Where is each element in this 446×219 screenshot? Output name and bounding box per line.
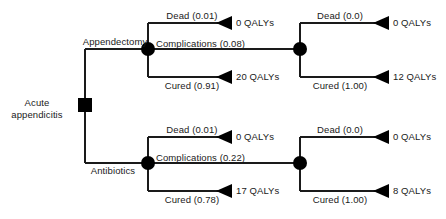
outcome-antibiotics-sub-dead: 0 QALYs xyxy=(393,131,431,142)
terminal-marker-antibiotics-sub-cured xyxy=(373,184,389,198)
branch-label-antibiotics-complications: Complications (0.22) xyxy=(156,152,245,163)
root-label: Acute appendicitis xyxy=(11,97,62,121)
outcome-appendectomy-sub-cured: 12 QALYs xyxy=(393,71,436,82)
decision-tree-diagram: Acute appendicitis Appendectomy Antibiot… xyxy=(0,0,446,219)
outcome-appendectomy-dead: 0 QALYs xyxy=(236,17,274,28)
branch-label-appendectomy-cured: Cured (0.91) xyxy=(165,80,220,91)
outcome-appendectomy-sub-dead: 0 QALYs xyxy=(393,17,431,28)
branch-label-antibiotics-dead: Dead (0.01) xyxy=(166,124,217,135)
strategy-label-appendectomy: Appendectomy xyxy=(83,36,148,47)
outcome-appendectomy-cured: 20 QALYs xyxy=(236,71,279,82)
branch-label-antibiotics-cured: Cured (0.78) xyxy=(165,194,220,205)
branch-label-appendectomy-sub-dead: Dead (0.0) xyxy=(317,10,363,21)
strategy-label-antibiotics: Antibiotics xyxy=(91,165,135,176)
root-label-line2: appendicitis xyxy=(11,109,62,121)
chance-node-antibiotics xyxy=(141,156,155,170)
branch-label-appendectomy-sub-cured: Cured (1.00) xyxy=(313,80,368,91)
outcome-antibiotics-sub-cured: 8 QALYs xyxy=(393,185,431,196)
terminal-marker-antibiotics-dead xyxy=(216,130,232,144)
terminal-marker-antibiotics-sub-dead xyxy=(373,130,389,144)
decision-node-root xyxy=(78,98,92,112)
chance-node-appendectomy-sub xyxy=(293,42,307,56)
terminal-marker-appendectomy-sub-cured xyxy=(373,70,389,84)
branch-label-appendectomy-complications: Complications (0.08) xyxy=(156,38,245,49)
outcome-antibiotics-dead: 0 QALYs xyxy=(236,131,274,142)
tree-lines-svg xyxy=(0,0,446,219)
terminal-marker-appendectomy-sub-dead xyxy=(373,16,389,30)
branch-label-appendectomy-dead: Dead (0.01) xyxy=(166,10,217,21)
branch-label-antibiotics-sub-dead: Dead (0.0) xyxy=(317,124,363,135)
outcome-antibiotics-cured: 17 QALYs xyxy=(236,185,279,196)
root-label-line1: Acute xyxy=(11,97,62,109)
chance-node-antibiotics-sub xyxy=(293,156,307,170)
branch-label-antibiotics-sub-cured: Cured (1.00) xyxy=(313,194,368,205)
terminal-marker-appendectomy-dead xyxy=(216,16,232,30)
